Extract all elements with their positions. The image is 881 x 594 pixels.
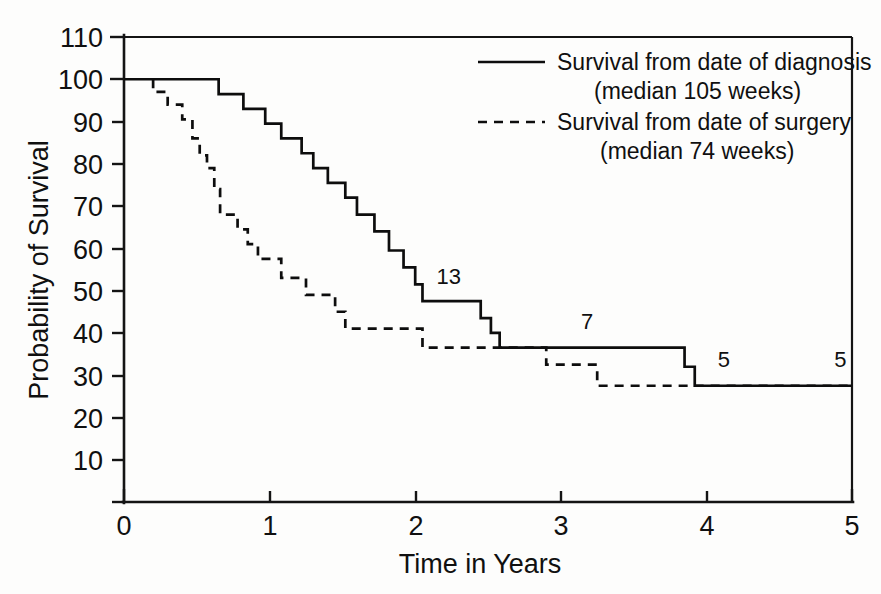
plot-frame (123, 35, 853, 503)
legend-label-surgery-line1: Survival from date of surgery (557, 109, 852, 135)
y-tick-label-20: 20 (73, 404, 103, 434)
y-tick-label-80: 80 (73, 150, 103, 180)
legend-label-diagnosis-line2: (median 105 weeks) (594, 78, 801, 104)
x-tick-label-3: 3 (553, 511, 568, 541)
y-tick-label-40: 40 (73, 319, 103, 349)
survival-curve-figure: 110 100 90 80 70 60 50 40 30 20 10 0 1 2… (0, 0, 881, 594)
x-tick-label-0: 0 (116, 511, 131, 541)
x-tick-label-5: 5 (844, 511, 859, 541)
x-tick-label-4: 4 (699, 511, 714, 541)
y-tick-label-90: 90 (73, 108, 103, 138)
at-risk-annotation: 5 (718, 347, 730, 372)
y-tick-label-10: 10 (73, 446, 103, 476)
x-axis-title: Time in Years (399, 549, 562, 579)
at-risk-annotation: 5 (834, 347, 846, 372)
x-tick-label-2: 2 (408, 511, 423, 541)
y-axis-title: Probability of Survival (24, 140, 54, 400)
y-tick-label-70: 70 (73, 192, 103, 222)
y-tick-label-60: 60 (73, 235, 103, 265)
legend-label-diagnosis-line1: Survival from date of diagnosis (557, 49, 872, 75)
y-tick-label-110: 110 (60, 23, 103, 53)
x-axis-ticks (124, 489, 852, 502)
x-tick-label-1: 1 (262, 511, 277, 541)
legend: Survival from date of diagnosis (median … (478, 49, 872, 164)
y-axis-tick-labels: 110 100 90 80 70 60 50 40 30 20 10 (58, 23, 103, 476)
y-tick-label-100: 100 (58, 65, 103, 95)
legend-label-surgery-line2: (median 74 weeks) (600, 138, 794, 164)
at-risk-annotation: 7 (581, 309, 593, 334)
y-axis-ticks (110, 37, 124, 502)
x-axis-tick-labels: 0 1 2 3 4 5 (116, 511, 859, 541)
y-tick-label-50: 50 (73, 277, 103, 307)
kaplan-meier-plot: 110 100 90 80 70 60 50 40 30 20 10 0 1 2… (0, 0, 881, 594)
at-risk-annotation: 13 (436, 264, 460, 289)
at-risk-annotations: 13755 (436, 264, 846, 371)
y-tick-label-30: 30 (73, 362, 103, 392)
